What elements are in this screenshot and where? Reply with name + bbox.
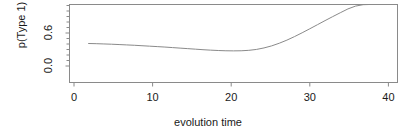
plot-canvas: [0, 0, 416, 135]
y-tick-label-06: 0.6: [43, 20, 54, 46]
y-axis-ticks: [66, 6, 70, 67]
plot-box: [70, 5, 398, 83]
x-axis-ticks: [74, 83, 388, 87]
chart-figure: 0 10 20 30 40 0.0 0.6 p(Type 1) evolutio…: [0, 0, 416, 135]
x-axis-title: evolution time: [0, 116, 416, 128]
x-tick-label-20: 20: [225, 92, 237, 103]
y-axis-title: p(Type 1): [15, 2, 27, 48]
y-axis-title-wrapper: p(Type 1): [11, 0, 25, 75]
y-tick-label-0: 0.0: [43, 53, 54, 79]
x-tick-label-40: 40: [382, 92, 394, 103]
data-series-line: [89, 5, 370, 51]
x-tick-label-0: 0: [71, 92, 77, 103]
x-tick-label-30: 30: [304, 92, 316, 103]
x-tick-label-10: 10: [146, 92, 158, 103]
